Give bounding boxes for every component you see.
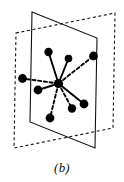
atom-bottom-left bbox=[46, 114, 55, 123]
atom-left-far bbox=[18, 74, 27, 83]
atom-top-left bbox=[44, 48, 52, 56]
central-atom bbox=[54, 79, 63, 88]
bond-left-far bbox=[23, 79, 59, 84]
atom-top-middle bbox=[65, 55, 73, 63]
atom-top-right bbox=[89, 52, 98, 61]
atom-bottom-mid bbox=[68, 104, 76, 112]
diagram-canvas bbox=[0, 0, 124, 182]
bond-bottom-left bbox=[50, 84, 59, 119]
dashed-plane bbox=[14, 13, 115, 148]
figure-caption: (b) bbox=[0, 160, 124, 175]
atom-left-near bbox=[34, 86, 43, 95]
figure-panel: (b) bbox=[0, 0, 124, 182]
atom-bottom-right bbox=[80, 100, 89, 109]
bond-bottom-right bbox=[59, 84, 85, 105]
bond-top-left bbox=[49, 52, 59, 84]
